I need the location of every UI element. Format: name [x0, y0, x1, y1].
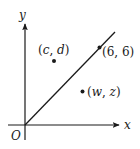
x-axis-label: x: [124, 118, 131, 132]
point-six-six-label: (6, 6): [102, 45, 134, 59]
point-c-d-label: (c, d): [38, 43, 69, 57]
point-c-d: [52, 59, 56, 63]
point-w-z-label: (w, z): [87, 85, 121, 99]
coordinate-diagram: y x O (6, 6) (c, d) (w, z): [0, 0, 140, 149]
origin-label: O: [11, 129, 21, 143]
y-axis-label: y: [18, 8, 26, 22]
point-w-z: [81, 90, 85, 94]
point-six-six: [98, 46, 102, 50]
